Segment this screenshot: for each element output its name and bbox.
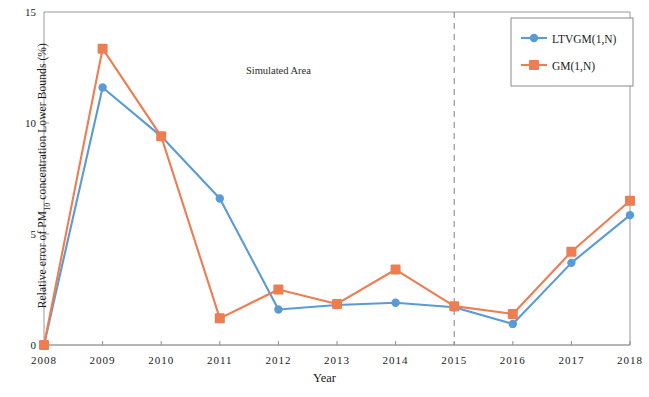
y-axis-tick-label: 0 [31, 339, 37, 351]
x-axis-tick-label: 2012 [265, 354, 291, 366]
data-point-marker[interactable] [156, 131, 166, 141]
legend-box [511, 18, 633, 86]
y-axis-label-prefix: Relative error of PM [36, 211, 48, 309]
y-axis-label: Relative error of PM10 concentration Low… [36, 36, 51, 316]
legend-label-1[interactable]: LTVGM(1,N) [552, 33, 617, 46]
data-point-marker[interactable] [391, 265, 401, 275]
data-point-marker[interactable] [509, 320, 517, 328]
data-point-marker[interactable] [449, 301, 459, 311]
data-point-marker[interactable] [98, 83, 106, 91]
data-point-marker[interactable] [332, 299, 342, 309]
data-point-marker[interactable] [215, 313, 225, 323]
x-axis-tick-label: 2010 [148, 354, 174, 366]
x-axis-tick-label: 2016 [500, 354, 526, 366]
x-axis-tick-label: 2013 [324, 354, 350, 366]
y-axis-tick-label: 15 [25, 6, 37, 18]
x-axis-tick-label: 2015 [441, 354, 467, 366]
legend-label-2[interactable]: GM(1,N) [552, 60, 595, 73]
legend-marker-2 [529, 60, 539, 70]
data-point-marker[interactable] [567, 259, 575, 267]
data-point-marker[interactable] [625, 196, 635, 206]
y-axis-label-subscript: 10 [43, 203, 52, 211]
chart-container: Relative error of PM10 concentration Low… [0, 0, 649, 397]
chart-annotation: Simulated Area [246, 65, 311, 76]
y-axis-label-suffix: concentration Lower Bounds (%) [36, 43, 48, 203]
legend-marker-1 [530, 34, 538, 42]
y-axis-tick-label: 10 [25, 117, 37, 129]
x-axis-tick-label: 2008 [31, 354, 57, 366]
data-point-marker[interactable] [566, 247, 576, 257]
x-axis-label: Year [0, 371, 649, 386]
data-point-marker[interactable] [274, 305, 282, 313]
data-point-marker[interactable] [626, 211, 634, 219]
data-point-marker[interactable] [216, 194, 224, 202]
chart-plot-area: 0510152008200920102011201220132014201520… [0, 0, 649, 397]
data-point-marker[interactable] [508, 309, 518, 319]
x-axis-tick-label: 2014 [383, 354, 409, 366]
x-axis-tick-label: 2017 [558, 354, 584, 366]
x-axis-tick-label: 2009 [90, 354, 116, 366]
x-axis-tick-label: 2011 [207, 354, 233, 366]
data-point-marker[interactable] [98, 44, 108, 54]
data-point-marker[interactable] [39, 340, 49, 350]
data-point-marker[interactable] [391, 299, 399, 307]
x-axis-tick-label: 2018 [617, 354, 643, 366]
data-point-marker[interactable] [273, 285, 283, 295]
